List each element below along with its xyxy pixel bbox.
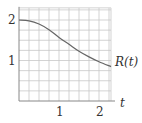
x-axis-label: t (120, 96, 125, 110)
x-tick-label-2: 2 (96, 105, 104, 119)
chart: 2 1 1 2 t R(t) (0, 0, 142, 123)
curve-label: R(t) (114, 55, 139, 69)
y-tick-label-1: 1 (8, 54, 16, 68)
r-of-t-curve (19, 20, 111, 67)
y-tick-label-2: 2 (8, 13, 16, 27)
x-tick-label-1: 1 (56, 105, 64, 119)
axes (19, 7, 115, 101)
